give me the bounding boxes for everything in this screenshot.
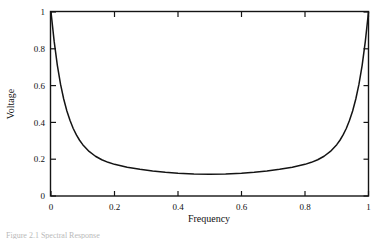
x-tick-label: 0.6 bbox=[236, 202, 248, 212]
chart-canvas: 00.20.40.60.81 00.20.40.60.81 Frequency … bbox=[0, 0, 382, 239]
y-tick-label: 0.2 bbox=[34, 154, 45, 164]
y-tick-label: 0 bbox=[41, 191, 46, 201]
y-tick-label: 0.4 bbox=[34, 118, 46, 128]
y-tick-label: 0.8 bbox=[34, 44, 46, 54]
plot-frame bbox=[51, 12, 369, 197]
figure-caption: Figure 2.1 Spectral Response bbox=[6, 231, 376, 239]
x-tick-label: 0.2 bbox=[109, 202, 120, 212]
x-axis-tick-labels: 00.20.40.60.81 bbox=[49, 202, 371, 212]
y-axis-tick-labels: 00.20.40.60.81 bbox=[34, 7, 46, 201]
x-tick-label: 1 bbox=[366, 202, 371, 212]
x-tick-label: 0.8 bbox=[299, 202, 311, 212]
x-tick-label: 0.4 bbox=[172, 202, 184, 212]
figure-container: 00.20.40.60.81 00.20.40.60.81 Frequency … bbox=[0, 0, 382, 239]
y-tick-label: 1 bbox=[41, 7, 46, 17]
y-tick-label: 0.6 bbox=[34, 81, 46, 91]
x-tick-label: 0 bbox=[49, 202, 54, 212]
y-axis-title: Voltage bbox=[5, 88, 16, 119]
x-axis-title: Frequency bbox=[188, 213, 230, 224]
